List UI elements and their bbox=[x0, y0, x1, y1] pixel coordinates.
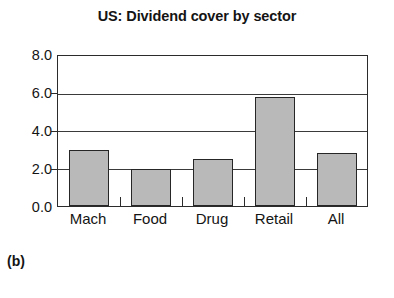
x-tick-mark-4 bbox=[306, 197, 307, 206]
x-tick-label-all: All bbox=[305, 211, 367, 228]
x-tick-label-drug: Drug bbox=[181, 211, 243, 228]
bar-food bbox=[131, 169, 171, 207]
bar-retail bbox=[255, 97, 295, 206]
gridline-6 bbox=[58, 94, 367, 95]
y-tick-label-6: 6.0 bbox=[6, 86, 52, 101]
x-axis: Mach Food Drug Retail All bbox=[57, 211, 368, 237]
x-tick-mark-1 bbox=[120, 197, 121, 206]
gridline-4 bbox=[58, 131, 367, 132]
y-tick-label-2: 2.0 bbox=[6, 162, 52, 177]
x-tick-label-retail: Retail bbox=[243, 211, 305, 228]
bar-mach bbox=[69, 150, 109, 206]
y-axis: 8.0 6.0 4.0 2.0 0.0 bbox=[0, 55, 52, 207]
chart-title: US: Dividend cover by sector bbox=[0, 8, 394, 24]
y-tick-label-4: 4.0 bbox=[6, 124, 52, 139]
bar-all bbox=[317, 153, 357, 206]
figure-caption: (b) bbox=[7, 253, 25, 269]
y-tick-label-8: 8.0 bbox=[6, 48, 52, 63]
bar-drug bbox=[193, 159, 233, 206]
x-tick-mark-2 bbox=[182, 197, 183, 206]
x-tick-mark-3 bbox=[244, 197, 245, 206]
y-tick-label-0: 0.0 bbox=[6, 200, 52, 215]
figure-panel: US: Dividend cover by sector 8.0 6.0 4.0… bbox=[0, 0, 394, 298]
x-tick-label-mach: Mach bbox=[57, 211, 119, 228]
x-tick-label-food: Food bbox=[119, 211, 181, 228]
plot-area bbox=[57, 55, 368, 207]
